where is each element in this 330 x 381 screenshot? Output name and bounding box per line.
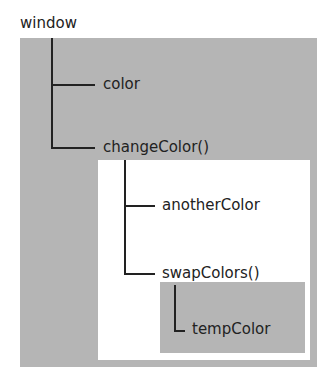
node-tempColor: tempColor xyxy=(192,320,270,338)
node-changeColor: changeColor() xyxy=(103,138,209,156)
node-color: color xyxy=(103,75,140,93)
node-anotherColor: anotherColor xyxy=(162,196,260,214)
connector-window-trunk xyxy=(51,38,53,148)
connector-changeColor xyxy=(51,147,95,149)
connector-changeColor-trunk xyxy=(124,160,126,274)
swapColors-scope-box xyxy=(160,282,305,353)
node-swapColors: swapColors() xyxy=(162,264,259,282)
connector-swapColors-trunk xyxy=(174,285,176,331)
node-window: window xyxy=(20,14,77,32)
connector-anotherColor xyxy=(124,205,155,207)
connector-color xyxy=(51,84,95,86)
connector-swapColors xyxy=(124,273,155,275)
connector-tempColor xyxy=(174,330,185,332)
